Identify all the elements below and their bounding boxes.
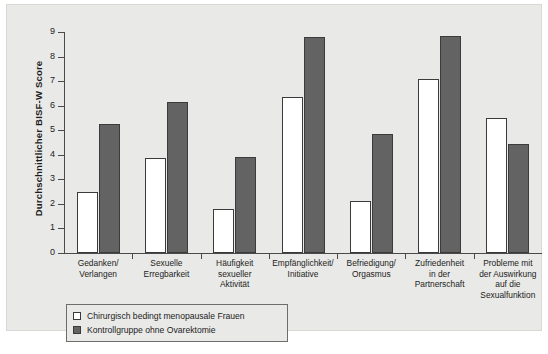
x-axis-label-line: Zufriedenheit [401, 258, 477, 269]
x-axis-label-line: Initiative [265, 269, 341, 280]
x-axis-label-line: der Auswirkung [470, 269, 546, 280]
x-axis-label-line: auf die [470, 279, 546, 290]
y-tick-label: 5 [35, 124, 55, 134]
bar-surgical-4 [350, 201, 371, 253]
x-axis-group-label: Probleme mitder Auswirkungauf dieSexualf… [470, 258, 546, 300]
bar-surgical-2 [213, 209, 234, 253]
x-axis-label-line: Partnerschaft [401, 279, 477, 290]
bar-control-0 [99, 124, 120, 253]
x-axis-group-label: Befriedigung/Orgasmus [333, 258, 409, 279]
x-axis-label-line: Aktivität [197, 279, 273, 290]
x-axis-label-line: sexueller [197, 269, 273, 280]
x-axis-group-label: Zufriedenheitin derPartnerschaft [401, 258, 477, 290]
bar-surgical-5 [418, 79, 439, 253]
y-tick-label: 9 [35, 26, 55, 36]
x-axis-label-line: Empfänglichkeit/ [265, 258, 341, 269]
bar-surgical-6 [486, 118, 507, 253]
legend-label: Chirurgisch bedingt menopausale Frauen [87, 311, 245, 321]
y-tick-mark [58, 106, 64, 107]
bar-control-6 [508, 144, 529, 253]
x-axis-label-line: Häufigkeit [197, 258, 273, 269]
legend-swatch-dark [73, 326, 81, 334]
x-axis-label-line: Verlangen [60, 269, 136, 280]
y-tick-mark [58, 57, 64, 58]
x-axis-label-line: Sexuelle [128, 258, 204, 269]
y-tick-mark [58, 32, 64, 33]
x-axis-group-label: SexuelleErregbarkeit [128, 258, 204, 279]
x-axis-group-label: Gedanken/Verlangen [60, 258, 136, 279]
y-tick-mark [58, 228, 64, 229]
bar-surgical-1 [145, 158, 166, 253]
y-tick-label: 4 [35, 149, 55, 159]
bar-control-2 [235, 157, 256, 253]
y-tick-mark [58, 81, 64, 82]
legend-item: Chirurgisch bedingt menopausale Frauen [73, 309, 281, 323]
x-axis-label-line: in der [401, 269, 477, 280]
legend-label: Kontrollgruppe ohne Ovarektomie [87, 325, 216, 335]
y-tick-label: 2 [35, 198, 55, 208]
y-tick-mark [58, 204, 64, 205]
y-tick-mark [58, 179, 64, 180]
bar-surgical-3 [282, 97, 303, 253]
y-tick-label: 8 [35, 51, 55, 61]
legend: Chirurgisch bedingt menopausale FrauenKo… [66, 304, 288, 342]
x-axis-label-line: Gedanken/ [60, 258, 136, 269]
x-axis-label-line: Orgasmus [333, 269, 409, 280]
y-tick-label: 3 [35, 173, 55, 183]
x-axis-label-line: Sexualfunktion [470, 290, 546, 301]
y-tick-mark [58, 130, 64, 131]
x-axis-label-line: Erregbarkeit [128, 269, 204, 280]
bar-control-1 [167, 102, 188, 253]
y-tick-mark [58, 253, 64, 254]
y-axis-line [64, 32, 65, 254]
x-axis-label-line: Probleme mit [470, 258, 546, 269]
x-axis-group-label: HäufigkeitsexuellerAktivität [197, 258, 273, 290]
x-axis-line [64, 253, 542, 254]
legend-swatch-light [73, 312, 81, 320]
y-tick-label: 6 [35, 100, 55, 110]
x-axis-label-line: Befriedigung/ [333, 258, 409, 269]
bar-control-5 [440, 36, 461, 253]
bar-control-4 [372, 134, 393, 253]
y-tick-label: 0 [35, 247, 55, 257]
x-axis-group-label: Empfänglichkeit/Initiative [265, 258, 341, 279]
legend-item: Kontrollgruppe ohne Ovarektomie [73, 323, 281, 337]
y-tick-label: 1 [35, 222, 55, 232]
chart-plate: Durchschnittlicher BISF-W Score 01234567… [6, 4, 542, 331]
bar-control-3 [304, 37, 325, 253]
bar-surgical-0 [77, 192, 98, 253]
bar-chart-figure: Durchschnittlicher BISF-W Score 01234567… [0, 0, 548, 354]
y-tick-label: 7 [35, 75, 55, 85]
y-tick-mark [58, 155, 64, 156]
